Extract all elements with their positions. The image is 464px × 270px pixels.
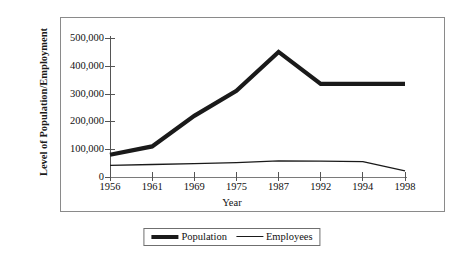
y-tick-label: 400,000 (46, 61, 104, 71)
legend-entry-employees: Employees (236, 231, 313, 242)
x-tick-mark (278, 172, 279, 181)
x-tick-label: 1975 (216, 181, 256, 192)
x-tick-mark (405, 172, 406, 181)
x-tick-mark (194, 172, 195, 181)
y-tick-label: 300,000 (46, 89, 104, 99)
y-tick-label: 200,000 (46, 116, 104, 126)
x-tick-mark (110, 172, 111, 181)
x-tick-label: 1969 (174, 181, 214, 192)
x-tick-label: 1956 (90, 181, 130, 192)
chart-legend: Population Employees (143, 228, 320, 246)
y-tick-label: 500,000 (46, 33, 104, 43)
y-tick-label: 100,000 (46, 144, 104, 154)
legend-label-population: Population (181, 231, 227, 242)
x-tick-label: 1987 (259, 181, 299, 192)
chart-figure: Level of Population/Employment 500,000 4… (0, 0, 464, 270)
x-tick-label: 1994 (343, 181, 383, 192)
x-tick-mark (362, 172, 363, 181)
y-axis-line (110, 36, 111, 179)
x-tick-label: 1998 (385, 181, 425, 192)
x-tick-mark (152, 172, 153, 181)
x-tick-mark (236, 172, 237, 181)
y-axis-tick-labels: 500,000 400,000 300,000 200,000 100,000 … (44, 0, 104, 200)
legend-label-employees: Employees (266, 231, 313, 242)
x-tick-label: 1992 (301, 181, 341, 192)
x-tick-mark (320, 172, 321, 181)
x-axis-title: Year (0, 197, 464, 208)
legend-entry-population: Population (151, 231, 227, 242)
thin-line-swatch-icon (236, 236, 263, 238)
x-tick-label: 1961 (132, 181, 172, 192)
thick-line-swatch-icon (151, 235, 178, 239)
